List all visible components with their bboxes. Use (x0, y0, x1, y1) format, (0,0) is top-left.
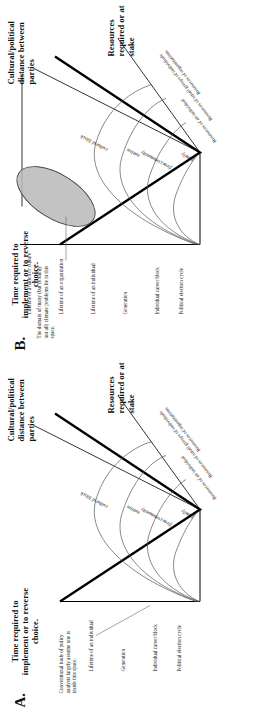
panel-b-x-axis-title-right: Resources required or at stake (106, 0, 136, 56)
panel-b: B. Time required to implement or to reve… (0, 0, 262, 356)
panel-a-x-axis-title-left: Cultural/political distance between part… (6, 371, 36, 441)
figure-root: A. Time required to implement or to reve… (0, 0, 262, 713)
panel-b-x-axis-title-left: Cultural/political distance between part… (6, 14, 36, 84)
panel-a: A. Time required to implement or to reve… (0, 357, 262, 713)
panel-a-x-axis-title-right: Resources required or at stake (106, 353, 136, 413)
panel-a-callout: Conventional tools of policy analysis la… (58, 619, 78, 693)
panel-b-callout: The domain of many (but certainly not al… (36, 264, 56, 338)
